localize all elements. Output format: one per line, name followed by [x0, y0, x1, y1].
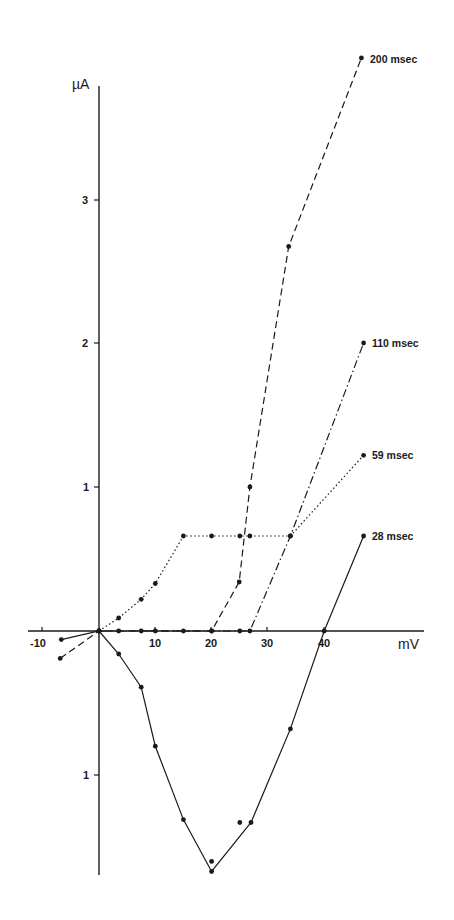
outlier-point [237, 820, 242, 825]
x-tick-10: 10 [149, 637, 161, 649]
series-label-200-msec: 200 msec [370, 53, 417, 65]
y-tick-neg-1: 1 [83, 769, 89, 781]
series-line-200-msec [60, 58, 361, 659]
data-point [361, 534, 366, 539]
data-point [322, 629, 327, 634]
data-point [237, 580, 242, 585]
data-point [116, 616, 121, 621]
data-point [248, 485, 253, 490]
data-point [58, 656, 63, 661]
data-point [237, 534, 242, 539]
data-point [97, 629, 102, 634]
series-110-msec [97, 341, 366, 634]
y-ticks: 3 2 1 1 [82, 194, 99, 781]
data-point [288, 727, 293, 732]
series-28-msec [59, 534, 366, 874]
series-label-59-msec: 59 msec [372, 449, 414, 461]
outlier-point [209, 859, 214, 864]
data-point [153, 581, 158, 586]
y-tick-3: 3 [82, 194, 88, 206]
current-voltage-chart: 3 2 1 1 -10 10 20 30 40 µA mV 200 msec 1… [0, 0, 454, 920]
y-tick-1: 1 [83, 481, 89, 493]
data-point [153, 744, 158, 749]
series-label-110-msec: 110 msec [372, 337, 419, 349]
data-point [361, 453, 366, 458]
data-point [288, 534, 293, 539]
data-point [209, 869, 214, 874]
data-point [139, 597, 144, 602]
x-axis-label: mV [398, 636, 420, 652]
series-line-59-msec [99, 455, 364, 631]
data-point [248, 534, 253, 539]
y-tick-2: 2 [82, 337, 88, 349]
data-point [116, 652, 121, 657]
data-point [181, 534, 186, 539]
data-point [209, 629, 214, 634]
data-point [181, 817, 186, 822]
data-point [237, 629, 242, 634]
data-point [209, 534, 214, 539]
data-point [248, 629, 253, 634]
data-point [359, 56, 364, 61]
data-point [249, 820, 254, 825]
data-point [286, 244, 291, 249]
x-tick-30: 30 [261, 637, 273, 649]
data-point [139, 685, 144, 690]
series-200-msec [58, 56, 364, 661]
series-label-28-msec: 28 msec [372, 530, 414, 542]
data-point [361, 341, 366, 346]
series-line-110-msec [99, 343, 364, 631]
series-layer [58, 56, 366, 874]
x-tick-neg-10: -10 [30, 637, 46, 649]
data-point [59, 637, 64, 642]
series-line-28-msec [61, 536, 363, 872]
y-axis-label: µA [72, 76, 90, 92]
x-tick-20: 20 [205, 637, 217, 649]
series-59-msec [97, 453, 366, 633]
